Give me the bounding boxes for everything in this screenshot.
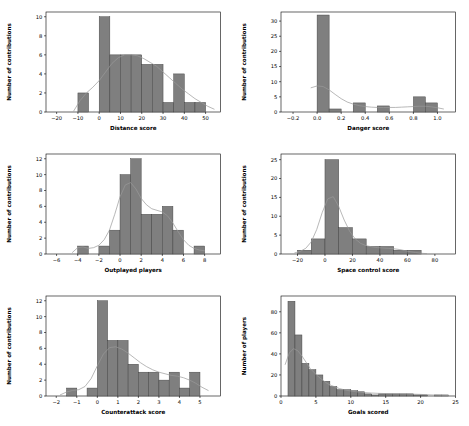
x-tick-label: 5 xyxy=(314,399,317,405)
y-tick-label: 10 xyxy=(36,14,43,20)
chart-panel-goals-scored: 0510152025020406080Goals scoredNumber of… xyxy=(235,284,469,426)
y-tick-label: 6 xyxy=(39,52,42,58)
x-tick-label: −10 xyxy=(72,115,83,121)
plot-area-goals-scored: 0510152025020406080Goals scoredNumber of… xyxy=(235,284,469,426)
histogram-bar xyxy=(174,74,185,112)
chart-panel-space-control-score: −200204060800510152025Space control scor… xyxy=(235,142,469,284)
chart-panel-distance-score: −20−10010203040500246810Distance scoreNu… xyxy=(0,0,235,142)
x-tick-label: 0 xyxy=(279,399,282,405)
chart-panel-outplayed-players: −6−4−202468024681012Outplayed playersNum… xyxy=(0,142,235,284)
y-tick-label: 6 xyxy=(39,345,42,351)
histogram-bar xyxy=(120,175,131,254)
y-tick-label: 6 xyxy=(39,203,42,209)
histogram-bar xyxy=(311,239,325,254)
y-tick-label: 4 xyxy=(39,361,43,367)
x-tick-label: 40 xyxy=(181,115,188,121)
histogram-bar xyxy=(190,372,200,396)
x-tick-label: 4 xyxy=(178,399,182,405)
x-tick-label: 0.0 xyxy=(312,115,320,121)
x-tick-label: 1.0 xyxy=(433,115,441,121)
histogram-bar xyxy=(184,102,195,112)
histogram-grid-figure: −20−10010203040500246810Distance scoreNu… xyxy=(0,0,469,426)
histogram-bar xyxy=(179,388,189,396)
y-tick-label: 10 xyxy=(270,79,277,85)
plot-area-space-control-score: −200204060800510152025Space control scor… xyxy=(235,142,469,284)
y-tick-label: 8 xyxy=(39,187,42,193)
y-tick-label: 10 xyxy=(36,172,43,178)
y-tick-label: 0 xyxy=(39,109,42,115)
x-tick-label: 0.2 xyxy=(337,115,345,121)
x-tick-label: −20 xyxy=(292,257,303,263)
plot-area-danger-score: −0.20.00.20.40.60.81.0051015202530Danger… xyxy=(235,0,469,142)
y-tick-label: 2 xyxy=(39,90,42,96)
x-tick-label: −1 xyxy=(73,399,81,405)
y-tick-label: 4 xyxy=(39,71,43,77)
histogram-bar xyxy=(67,388,77,396)
y-tick-label: 5 xyxy=(274,232,277,238)
histogram-bar xyxy=(322,381,329,396)
x-tick-label: 80 xyxy=(431,257,438,263)
x-tick-label: 6 xyxy=(182,257,185,263)
y-tick-label: 0 xyxy=(39,393,42,399)
x-axis-title: Goals scored xyxy=(348,409,388,415)
y-tick-label: 0 xyxy=(274,251,277,257)
histogram-bar xyxy=(87,388,97,396)
histogram-bar xyxy=(138,372,148,396)
histogram-bar xyxy=(324,160,338,254)
y-tick-label: 10 xyxy=(270,213,277,219)
histogram-bar xyxy=(352,239,366,254)
bars-group xyxy=(317,15,437,112)
chart-panel-danger-score: −0.20.00.20.40.60.81.0051015202530Danger… xyxy=(235,0,469,142)
y-axis-title: Number of contributions xyxy=(6,165,12,243)
histogram-bar xyxy=(338,228,352,254)
histogram-bar xyxy=(385,394,392,396)
histogram-bar xyxy=(329,387,336,396)
histogram-bar xyxy=(110,55,121,112)
x-tick-label: −2 xyxy=(95,257,103,263)
x-axis-title: Counterattack score xyxy=(101,409,165,415)
y-tick-label: 20 xyxy=(270,175,277,181)
histogram-bar xyxy=(118,340,128,396)
x-tick-label: 0 xyxy=(118,257,121,263)
x-axis-title: Danger score xyxy=(347,125,389,132)
x-axis-title: Distance score xyxy=(110,125,157,131)
x-tick-label: 5 xyxy=(198,399,201,405)
histogram-bar xyxy=(149,372,159,396)
x-tick-label: 0.4 xyxy=(361,115,370,121)
histogram-bar xyxy=(141,214,152,254)
y-tick-label: 12 xyxy=(36,298,43,304)
x-tick-label: 1 xyxy=(116,399,119,405)
y-tick-label: 4 xyxy=(39,219,43,225)
histogram-bar xyxy=(378,394,385,396)
x-tick-label: 10 xyxy=(117,115,124,121)
y-tick-label: 2 xyxy=(39,235,42,241)
histogram-bar xyxy=(413,395,420,396)
histogram-bar xyxy=(301,363,308,396)
y-tick-label: 8 xyxy=(39,33,42,39)
y-tick-label: 60 xyxy=(270,330,277,336)
x-tick-label: 0.6 xyxy=(385,115,393,121)
x-tick-label: 15 xyxy=(382,399,389,405)
histogram-bar xyxy=(329,109,341,112)
plot-area-distance-score: −20−10010203040500246810Distance scoreNu… xyxy=(0,0,235,142)
x-tick-label: 2 xyxy=(140,257,143,263)
histogram-bar xyxy=(317,15,329,112)
y-tick-label: 80 xyxy=(270,309,277,315)
y-tick-label: 8 xyxy=(39,329,42,335)
bars-group xyxy=(287,301,448,396)
y-tick-label: 0 xyxy=(274,109,277,115)
y-axis-title: Number of contributions xyxy=(6,307,12,385)
x-tick-label: 0.8 xyxy=(409,115,417,121)
x-tick-label: 0 xyxy=(323,257,326,263)
histogram-bar xyxy=(371,395,378,396)
x-tick-label: 40 xyxy=(376,257,383,263)
histogram-bar xyxy=(336,390,343,396)
histogram-bar xyxy=(152,64,163,112)
axes-frame xyxy=(281,154,456,254)
y-tick-label: 15 xyxy=(270,194,277,200)
x-tick-label: 4 xyxy=(161,257,165,263)
x-axis-title: Outplayed players xyxy=(105,267,163,274)
x-tick-label: 3 xyxy=(157,399,160,405)
y-tick-label: 30 xyxy=(270,18,277,24)
histogram-bar xyxy=(152,214,163,254)
